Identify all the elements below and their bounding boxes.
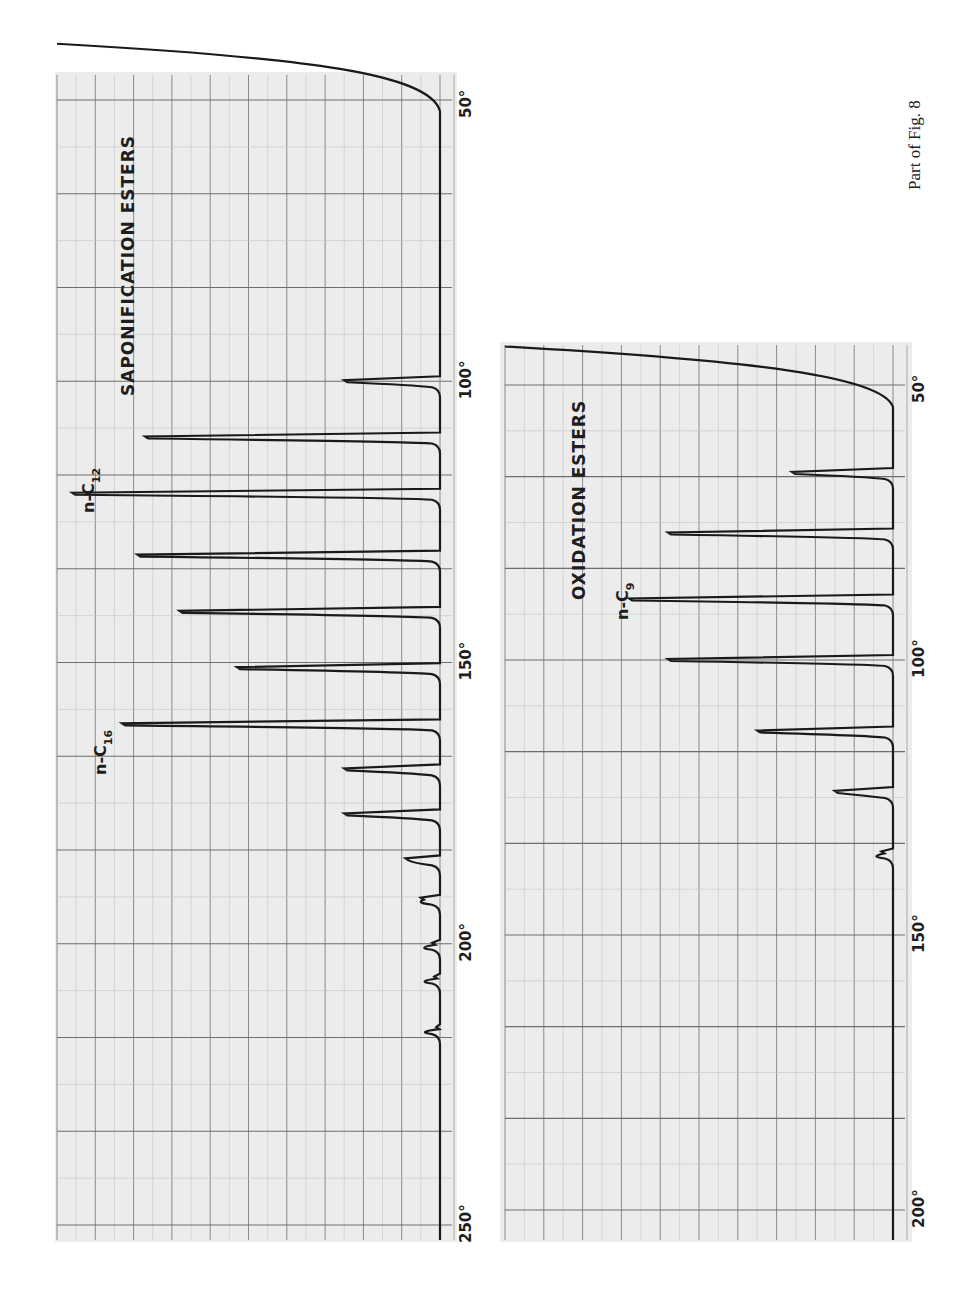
temperature-tick-label: 250°	[457, 1204, 475, 1243]
temperature-tick-label: 50°	[457, 90, 475, 118]
temperature-tick-label: 150°	[910, 914, 928, 953]
saponification-grid	[57, 75, 454, 1240]
svg-text:n-C16: n-C16	[91, 730, 115, 775]
saponification-temperature-axis: 50°100°150°200°250°	[457, 90, 475, 1243]
oxidation-temperature-axis: 50°100°150°200°	[910, 375, 928, 1228]
temperature-tick-label: 100°	[457, 360, 475, 399]
temperature-tick-label: 150°	[457, 642, 475, 681]
peak-label-n-c16: n-C16	[91, 730, 115, 775]
oxidation-title: OXIDATION ESTERS	[569, 400, 589, 600]
temperature-tick-label: 50°	[910, 375, 928, 403]
temperature-tick-label: 100°	[910, 639, 928, 678]
temperature-tick-label: 200°	[457, 923, 475, 962]
temperature-tick-label: 200°	[910, 1189, 928, 1228]
saponification-title: SAPONIFICATION ESTERS	[118, 135, 138, 396]
figure-caption: Part of Fig. 8	[905, 100, 925, 190]
oxidation-grid	[505, 345, 907, 1240]
chromatogram-figure: 50°100°150°200°250° 50°100°150°200° SAPO…	[0, 0, 959, 1294]
